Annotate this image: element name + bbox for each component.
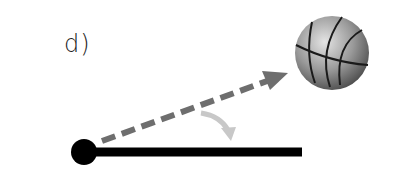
diagram-canvas	[0, 0, 397, 182]
pivot-dot	[71, 139, 97, 165]
trajectory-arrow-icon	[102, 71, 288, 141]
basketball-icon	[295, 16, 369, 90]
rotation-arrow-icon	[201, 113, 236, 141]
